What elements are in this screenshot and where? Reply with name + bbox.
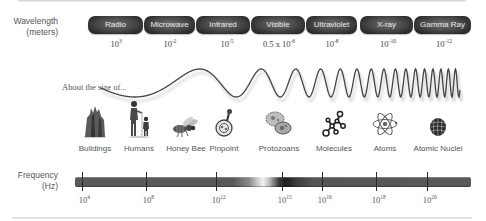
band-visible: Visible xyxy=(251,16,305,34)
frequency-value: 108 xyxy=(143,194,154,205)
wavelength-radio: 103 xyxy=(110,38,121,49)
band-xray: X-ray xyxy=(360,16,413,34)
band-gamma-ray: Gamma Ray xyxy=(414,16,471,34)
frequency-tick xyxy=(216,172,217,191)
frequency-value: 1012 xyxy=(212,194,226,205)
frequency-bar xyxy=(75,177,471,187)
wavelength-microwave: 10-2 xyxy=(163,38,176,49)
frequency-value: 1020 xyxy=(423,194,437,205)
frequency-tick xyxy=(322,172,323,191)
frequency-label: Frequency xyxy=(4,170,58,181)
band-ultraviolet: Ultraviolet xyxy=(306,16,357,34)
wavelength-infrared: 10-5 xyxy=(220,38,233,49)
wavelength-axis-label: Wavelength (meters) xyxy=(4,16,58,38)
nucleus-icon xyxy=(428,116,448,138)
frequency-value: 1016 xyxy=(318,194,332,205)
wavelength-visible: 0.5 x 10-6 xyxy=(263,38,295,49)
wave-graphic xyxy=(100,62,475,104)
bottom-divider xyxy=(12,217,472,219)
frequency-axis-label: Frequency (Hz) xyxy=(4,170,58,192)
band-microwave: Microwave xyxy=(144,16,195,34)
wavelength-ultraviolet: 10-8 xyxy=(325,38,338,49)
size-object-protozoans: Protozoans xyxy=(249,102,309,153)
frequency-value: 1018 xyxy=(372,194,386,205)
frequency-value: 1015 xyxy=(278,194,292,205)
band-radio: Radio xyxy=(88,16,143,34)
frequency-value: 104 xyxy=(79,194,90,205)
band-infrared: Infrared xyxy=(196,16,250,34)
frequency-tick xyxy=(282,172,283,191)
atom-icon xyxy=(371,110,399,138)
size-caption: About the size of... xyxy=(62,82,127,92)
molecule-icon xyxy=(321,110,347,138)
top-divider xyxy=(18,0,466,2)
frequency-unit: (Hz) xyxy=(4,181,58,192)
frequency-tick xyxy=(376,172,377,191)
frequency-tick xyxy=(146,172,147,191)
wavelength-gamma-ray: 10-12 xyxy=(436,38,452,49)
size-object-atoms: Atoms xyxy=(355,102,415,153)
wavelength-unit: (meters) xyxy=(4,27,58,38)
frequency-tick xyxy=(82,172,83,191)
frequency-tick xyxy=(427,172,428,191)
size-object-pinpoint: Pinpoint xyxy=(194,102,254,153)
size-object-atomic-nuclei: Atomic Nuclei xyxy=(408,102,468,153)
wavelength-label: Wavelength xyxy=(4,16,58,27)
protozoan-icon xyxy=(264,108,294,138)
building-icon xyxy=(82,104,108,138)
wavelength-xray: 10-10 xyxy=(380,38,396,49)
humans-icon xyxy=(126,100,152,138)
pinpoint-icon xyxy=(213,108,235,138)
